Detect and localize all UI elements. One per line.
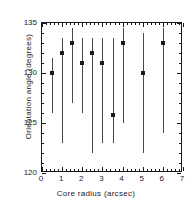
x-axis-minor-tick	[90, 23, 91, 25]
y-axis-minor-tick	[179, 153, 181, 154]
x-axis-minor-tick	[46, 169, 47, 171]
error-bar	[102, 38, 103, 143]
x-axis-minor-tick	[66, 169, 67, 171]
x-axis-tick	[102, 23, 103, 27]
x-axis-minor-tick	[115, 169, 116, 171]
x-axis-minor-tick	[58, 169, 59, 171]
data-point-marker	[141, 71, 145, 75]
y-axis-minor-tick	[42, 113, 44, 114]
x-axis-minor-tick	[110, 169, 111, 171]
y-axis-minor-tick	[179, 133, 181, 134]
x-axis-tick	[183, 167, 184, 171]
y-axis-tick	[177, 73, 181, 74]
x-axis-tick-label: 5	[134, 174, 150, 184]
x-axis-minor-tick	[86, 23, 87, 25]
data-point-marker	[60, 51, 64, 55]
x-axis-minor-tick	[54, 23, 55, 25]
x-axis-minor-tick	[46, 23, 47, 25]
x-axis-tick-label: 1	[53, 174, 69, 184]
x-axis-minor-tick	[155, 169, 156, 171]
x-axis-minor-tick	[54, 169, 55, 171]
x-axis-minor-tick	[74, 23, 75, 25]
x-axis-minor-tick	[159, 169, 160, 171]
x-axis-minor-tick	[119, 23, 120, 25]
scatter-chart-figure: Core radius (arcsec) Orientation angle (…	[0, 0, 192, 211]
x-axis-minor-tick	[127, 23, 128, 25]
x-axis-tick	[123, 167, 124, 171]
x-axis-minor-tick	[106, 169, 107, 171]
error-bar	[92, 38, 93, 153]
y-axis-minor-tick	[179, 33, 181, 34]
x-axis-tick	[163, 23, 164, 27]
x-axis-tick	[82, 167, 83, 171]
x-axis-minor-tick	[167, 169, 168, 171]
y-axis-minor-tick	[179, 43, 181, 44]
y-axis-tick	[42, 23, 46, 24]
data-point-marker	[100, 61, 104, 65]
y-axis-tick	[42, 73, 46, 74]
y-axis-minor-tick	[42, 143, 44, 144]
x-axis-minor-tick	[70, 23, 71, 25]
x-axis-minor-tick	[106, 23, 107, 25]
y-axis-minor-tick	[42, 133, 44, 134]
x-axis-minor-tick	[94, 169, 95, 171]
y-axis-tick	[42, 123, 46, 124]
x-axis-tick-label: 2	[73, 174, 89, 184]
error-bar	[82, 38, 83, 113]
x-axis-minor-tick	[58, 23, 59, 25]
x-axis-minor-tick	[119, 169, 120, 171]
data-point-marker	[70, 41, 74, 45]
y-axis-minor-tick	[42, 163, 44, 164]
y-axis-minor-tick	[179, 143, 181, 144]
x-axis-tick	[163, 167, 164, 171]
y-axis-minor-tick	[179, 83, 181, 84]
x-axis-tick	[102, 167, 103, 171]
x-axis-minor-tick	[175, 23, 176, 25]
x-axis-minor-tick	[66, 23, 67, 25]
x-axis-minor-tick	[147, 169, 148, 171]
x-axis-tick-label: 6	[154, 174, 170, 184]
x-axis-minor-tick	[139, 169, 140, 171]
y-axis-minor-tick	[42, 53, 44, 54]
x-axis-tick	[62, 167, 63, 171]
x-axis-minor-tick	[98, 23, 99, 25]
x-axis-minor-tick	[78, 169, 79, 171]
x-axis-tick	[183, 23, 184, 27]
error-bar	[113, 38, 114, 143]
y-axis-minor-tick	[179, 53, 181, 54]
x-axis-minor-tick	[159, 23, 160, 25]
y-axis-tick-label: 120	[17, 168, 37, 177]
x-axis-minor-tick	[115, 23, 116, 25]
x-axis-tick	[62, 23, 63, 27]
x-axis-minor-tick	[131, 169, 132, 171]
x-axis-minor-tick	[171, 169, 172, 171]
y-axis-minor-tick	[42, 63, 44, 64]
y-axis-minor-tick	[42, 103, 44, 104]
x-axis-minor-tick	[90, 169, 91, 171]
x-axis-minor-tick	[127, 169, 128, 171]
x-axis-minor-tick	[139, 23, 140, 25]
x-axis-minor-tick	[94, 23, 95, 25]
x-axis-minor-tick	[74, 169, 75, 171]
y-axis-minor-tick	[42, 153, 44, 154]
x-axis-tick	[143, 167, 144, 171]
data-point-marker	[111, 113, 115, 117]
x-axis-minor-tick	[50, 169, 51, 171]
data-point-marker	[50, 71, 54, 75]
y-axis-minor-tick	[42, 33, 44, 34]
x-axis-tick	[82, 23, 83, 27]
y-axis-tick-label: 135	[17, 18, 37, 27]
data-point-marker	[121, 41, 125, 45]
y-axis-tick-label: 130	[17, 68, 37, 77]
x-axis-tick	[123, 23, 124, 27]
x-axis-minor-tick	[151, 169, 152, 171]
x-axis-minor-tick	[155, 23, 156, 25]
x-axis-minor-tick	[175, 169, 176, 171]
x-axis-minor-tick	[135, 23, 136, 25]
x-axis-minor-tick	[98, 169, 99, 171]
x-axis-tick-label: 4	[114, 174, 130, 184]
y-axis-minor-tick	[42, 83, 44, 84]
y-axis-minor-tick	[179, 163, 181, 164]
data-point-marker	[90, 51, 94, 55]
x-axis-minor-tick	[151, 23, 152, 25]
